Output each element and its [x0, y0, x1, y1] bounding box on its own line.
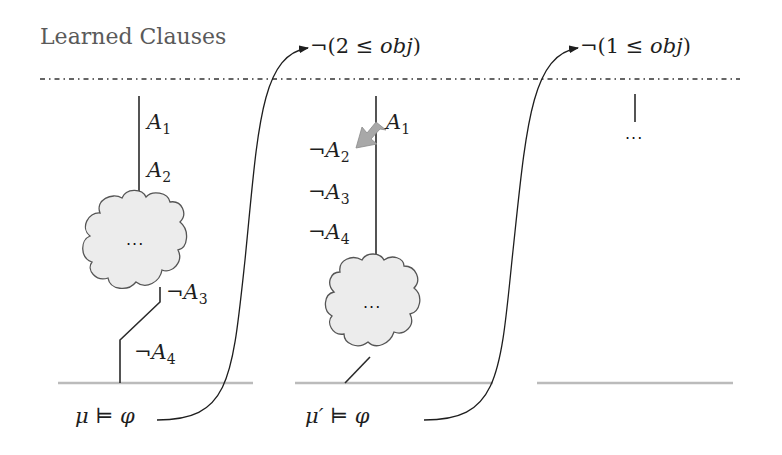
clause-2-var: obj: [650, 34, 683, 58]
clause-1-close: ): [413, 34, 421, 58]
col1-cloud-ellipsis: ...: [126, 232, 144, 248]
col1-literal-3: ¬A3: [166, 282, 208, 303]
clause-2-prefix: ¬(1 ≤: [580, 34, 650, 58]
learn-arrow-2: [424, 48, 578, 420]
model-label-mu: μ ⊨ φ: [75, 406, 135, 427]
backjump-arrow-icon: [356, 122, 386, 148]
col3-ellipsis: ...: [625, 126, 643, 142]
col2-literal-4: ¬A4: [308, 222, 350, 243]
learned-clauses-title: Learned Clauses: [40, 26, 226, 48]
clause-2-close: ): [683, 34, 691, 58]
diagram-canvas: [0, 0, 782, 455]
col2-literal-3: ¬A3: [308, 182, 350, 203]
learned-clause-2: ¬(1 ≤ obj): [580, 36, 691, 57]
col2-literal-2: ¬A2: [308, 140, 350, 161]
col1-literal-4: ¬A4: [134, 342, 176, 363]
learned-clause-1: ¬(2 ≤ obj): [310, 36, 421, 57]
col1-literal-2: A2: [147, 160, 171, 181]
model-label-mu-prime: μ′ ⊨ φ: [305, 406, 370, 427]
col1-literal-1: A1: [147, 112, 171, 133]
clause-1-prefix: ¬(2 ≤: [310, 34, 380, 58]
col2-cloud-ellipsis: ...: [363, 295, 381, 311]
col2-literal-1: A1: [386, 112, 410, 133]
clause-1-var: obj: [380, 34, 413, 58]
